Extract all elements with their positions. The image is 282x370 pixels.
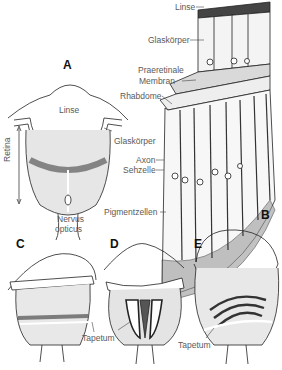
label-a-lens: Linse	[59, 106, 79, 115]
panel-letter-e: E	[194, 238, 202, 250]
label-a-retina: Retina	[3, 137, 12, 162]
panel-letter-b: B	[261, 209, 270, 221]
label-a-nerve-line1: Nervus	[57, 215, 84, 224]
eye-diagram-drawing	[0, 0, 282, 370]
label-a-nerve-line2: opticus	[55, 225, 82, 234]
label-b-sensory-cell: Sehzelle	[123, 166, 156, 175]
label-b-rhabdome: Rhabdome	[120, 92, 162, 101]
label-b-lens: Linse	[175, 3, 195, 12]
label-c-tapetum: Tapetum	[82, 334, 115, 343]
label-b-pigment-cells: Pigmentzellen	[104, 208, 157, 217]
label-b-axon: Axon	[136, 156, 155, 165]
panel-letter-d: D	[110, 238, 119, 250]
panel-b-ommatidia-block	[160, 2, 275, 300]
panel-letter-c: C	[16, 238, 25, 250]
label-b-vitreous: Glaskörper	[148, 36, 190, 45]
panel-c-eye	[8, 254, 96, 362]
label-b-preretinal-line2: Membran	[139, 77, 175, 86]
label-a-vitreous: Glaskörper	[114, 137, 156, 146]
panel-letter-a: A	[63, 59, 72, 71]
label-b-preretinal-line1: Praeretinale	[138, 66, 184, 75]
label-e-tapetum: Tapetum	[178, 341, 211, 350]
